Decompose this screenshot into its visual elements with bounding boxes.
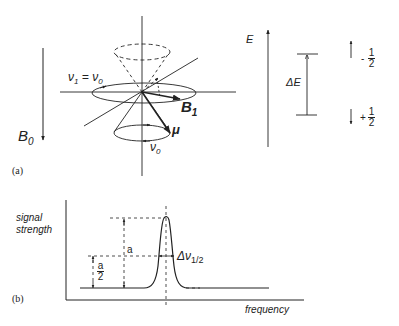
peak-height-label: a	[127, 244, 133, 255]
mu-label: μ	[172, 122, 180, 137]
panel-b-caption: (b)	[12, 293, 24, 304]
linewidth-label: Δν1/2	[177, 249, 204, 265]
half-height-label: a2	[97, 261, 104, 282]
precession-diagram	[60, 16, 236, 176]
panel-a-caption: (a)	[12, 165, 23, 176]
lower-state-sign: +	[360, 112, 366, 123]
upper-state-spin-value: 12	[368, 48, 375, 69]
y-axis-label: signalstrength	[16, 212, 52, 236]
nu0-label: ν0	[150, 140, 160, 156]
delta-e-label: ΔE	[286, 76, 301, 88]
upper-state-sign: -	[361, 53, 364, 64]
energy-axis-label: E	[246, 33, 253, 45]
lower-state-spin-value: 12	[368, 107, 375, 128]
energy-level-diagram	[268, 30, 351, 147]
x-axis-label: frequency	[245, 304, 289, 315]
b1-label: B1	[181, 98, 197, 118]
nu1-equals-nu0-label: ν1 = ν0	[68, 70, 103, 86]
spectrum-peak-curve	[80, 217, 269, 288]
nmr-diagram-graphics	[0, 0, 399, 326]
b0-label: B0	[18, 127, 34, 147]
